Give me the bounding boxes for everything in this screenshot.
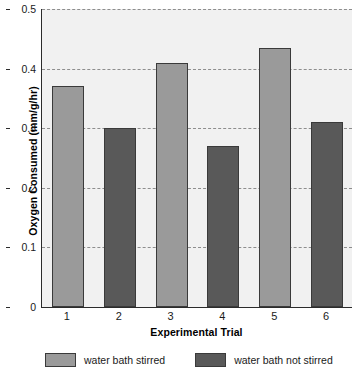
- x-tick-label: 6: [323, 310, 329, 322]
- legend-label-not-stirred: water bath not stirred: [234, 354, 333, 366]
- x-tick-label: 1: [64, 310, 70, 322]
- y-tick-mark: [6, 307, 10, 308]
- x-tick-label: 4: [219, 310, 225, 322]
- bar-series-container: [42, 9, 352, 307]
- plot-area: [41, 9, 352, 307]
- legend-entry-stirred: water bath stirred: [45, 353, 165, 367]
- y-tick-label: 0: [10, 301, 36, 313]
- chart-legend: water bath stirred water bath not stirre…: [41, 350, 352, 370]
- bar-trial-2: [104, 128, 136, 307]
- bar-trial-1: [52, 86, 84, 307]
- legend-swatch-stirred: [45, 353, 76, 367]
- y-tick-label: 0.2: [10, 182, 36, 194]
- y-tick-mark: [6, 128, 10, 129]
- y-tick-label: 0.4: [10, 63, 36, 75]
- y-tick-mark: [6, 188, 10, 189]
- y-tick-mark: [6, 69, 10, 70]
- y-tick-label: 0.1: [10, 241, 36, 253]
- bar-trial-5: [259, 48, 291, 307]
- bar-trial-3: [156, 63, 188, 307]
- bar-chart-figure: Oxygen Consumed (mm/g/hr) 00.10.20.30.40…: [0, 0, 358, 375]
- y-tick-mark: [6, 247, 10, 248]
- x-tick-label: 3: [168, 310, 174, 322]
- bar-trial-6: [311, 122, 343, 307]
- legend-label-stirred: water bath stirred: [84, 354, 165, 366]
- y-tick-label: 0.3: [10, 122, 36, 134]
- x-axis-title: Experimental Trial: [41, 326, 352, 338]
- legend-entry-not-stirred: water bath not stirred: [195, 353, 333, 367]
- y-tick-label: 0.5: [10, 3, 36, 15]
- x-tick-label: 5: [271, 310, 277, 322]
- y-tick-mark: [6, 9, 10, 10]
- x-tick-label: 2: [116, 310, 122, 322]
- bar-trial-4: [207, 146, 239, 307]
- legend-swatch-not-stirred: [195, 353, 226, 367]
